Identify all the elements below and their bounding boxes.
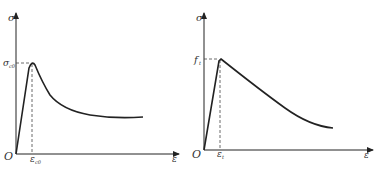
right-x-axis-label: ε bbox=[364, 150, 369, 160]
left-x-axis-label: ε bbox=[172, 154, 177, 164]
right-peak-stress-sub: t bbox=[199, 60, 202, 66]
left-curve bbox=[16, 63, 143, 154]
stress-strain-diagrams: σ ε O σ c0 ε c0 σ ε O f t ε t bbox=[0, 0, 378, 173]
left-peak-stress-sub: c0 bbox=[9, 63, 16, 69]
right-curve bbox=[204, 59, 333, 150]
left-y-axis-label: σ bbox=[8, 12, 16, 23]
left-diagram: σ ε O σ c0 ε c0 bbox=[3, 12, 179, 165]
right-diagram: σ ε O f t ε t bbox=[192, 12, 373, 161]
right-peak-strain-sub: t bbox=[222, 154, 225, 160]
left-origin-label: O bbox=[4, 150, 13, 163]
left-peak-strain-sub: c0 bbox=[35, 159, 42, 165]
right-y-axis-label: σ bbox=[196, 12, 204, 23]
right-origin-label: O bbox=[192, 148, 201, 161]
